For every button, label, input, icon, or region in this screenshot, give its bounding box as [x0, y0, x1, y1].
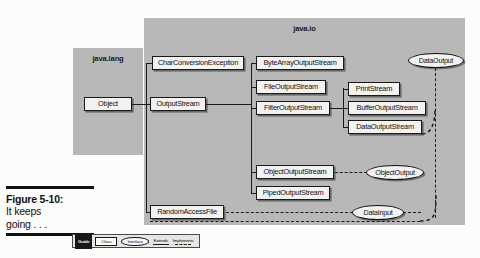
class-box-fileoutputstream[interactable]: FileOutputStream — [256, 80, 326, 94]
interface-label-datainput: DataInput — [364, 208, 393, 217]
legend-interface-swatch: Interface — [121, 237, 148, 246]
connector-outputstream-to-subclass-spine — [206, 104, 252, 105]
package-title-java-io: java.io — [144, 24, 465, 33]
package-title-java-lang: java.lang — [73, 54, 143, 63]
class-box-pipedoutputstream[interactable]: PipedOutputStream — [256, 186, 330, 200]
interface-ellipse-datainput[interactable]: DataInput — [352, 205, 404, 220]
class-label-bufferoutputstream: BufferOutputStream — [356, 104, 417, 111]
diagram-legend: Guide Class Interface Extends Implements — [72, 234, 200, 248]
class-label-bytearrayoutputstream: ByteArrayOutputStream — [263, 59, 336, 66]
legend-implements-label: Implements — [173, 238, 194, 243]
class-box-charconversionexception[interactable]: CharConversionException — [152, 56, 244, 70]
class-box-bufferoutputstream[interactable]: BufferOutputStream — [348, 101, 426, 115]
class-label-objectoutputstream: ObjectOutputStream — [264, 168, 327, 175]
class-box-bytearrayoutputstream[interactable]: ByteArrayOutputStream — [256, 56, 344, 70]
connector-outputstream-subclass-spine — [251, 63, 252, 194]
legend-implements-line-icon — [175, 244, 191, 245]
legend-implements-entry: Implements — [173, 238, 194, 245]
legend-guide-label: Guide — [75, 233, 92, 249]
caption-text-line-1: It keeps — [6, 205, 98, 218]
class-label-pipedoutputstream: PipedOutputStream — [263, 189, 324, 196]
class-label-object: Object — [98, 100, 118, 107]
implements-line-randomaccessfile-bottom-run — [150, 221, 420, 222]
implements-line-randomaccessfile-datainput — [226, 212, 353, 213]
class-label-outputstream: OutputStream — [156, 100, 199, 107]
interface-label-dataoutput: DataOutput — [419, 56, 453, 65]
figure-caption: Figure 5-10: It keeps going . . . — [6, 186, 98, 236]
class-box-outputstream[interactable]: OutputStream — [150, 97, 206, 111]
figure-page: java.lang java.io Object — [0, 0, 480, 258]
class-box-filteroutputstream[interactable]: FilterOutputStream — [256, 101, 330, 115]
connector-filteroutputstream-to-spine — [330, 108, 344, 109]
caption-text-line-2: going . . . — [6, 218, 98, 231]
class-box-objectoutputstream[interactable]: ObjectOutputStream — [256, 165, 334, 179]
class-label-charconversionexception: CharConversionException — [158, 59, 238, 66]
implements-curve-bottom-to-dataoutput-trunk — [412, 192, 448, 224]
class-box-dataoutputstream[interactable]: DataOutputStream — [348, 120, 422, 134]
class-box-randomaccessfile[interactable]: RandomAccessFile — [150, 205, 224, 219]
interface-ellipse-objectoutput[interactable]: ObjectOutput — [366, 165, 424, 180]
class-box-printstream[interactable]: PrintStream — [348, 82, 400, 96]
interface-ellipse-dataoutput[interactable]: DataOutput — [408, 53, 464, 68]
class-box-object[interactable]: Object — [84, 97, 132, 111]
class-label-dataoutputstream: DataOutputStream — [356, 123, 414, 130]
class-label-printstream: PrintStream — [356, 85, 392, 92]
class-label-fileoutputstream: FileOutputStream — [264, 83, 318, 90]
legend-extends-line-icon — [153, 244, 169, 245]
class-label-filteroutputstream: FilterOutputStream — [264, 104, 322, 111]
caption-body: Figure 5-10: It keeps going . . . — [6, 189, 98, 234]
legend-extends-label: Extends — [154, 238, 168, 243]
connector-spine-java-io — [146, 63, 147, 212]
interface-label-objectoutput: ObjectOutput — [375, 168, 414, 177]
legend-class-swatch: Class — [95, 237, 117, 246]
implements-line-objectoutputstream-objectoutput — [335, 172, 367, 173]
caption-figure-number: Figure 5-10: — [6, 193, 98, 206]
class-label-randomaccessfile: RandomAccessFile — [157, 208, 217, 215]
legend-extends-entry: Extends — [153, 238, 169, 245]
